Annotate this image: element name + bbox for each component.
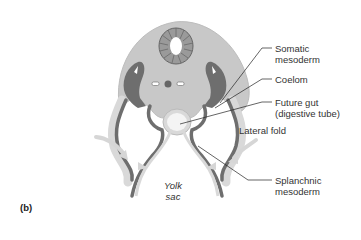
panel-label: (b) [20,202,32,213]
neural-tube [159,28,193,64]
label-future-gut: Future gut (digestive tube) [275,97,340,119]
label-splanchnic-mesoderm: Splanchnic mesoderm [275,175,321,197]
label-somatic-mesoderm: Somatic mesoderm [275,43,320,65]
label-coelom: Coelom [275,74,308,85]
right-dorsal-aorta [177,82,184,86]
label-yolk-sac: Yolk sac [161,180,185,202]
notochord [165,81,172,88]
left-dorsal-aorta [152,82,159,86]
label-lateral-fold: Lateral fold [239,125,286,136]
